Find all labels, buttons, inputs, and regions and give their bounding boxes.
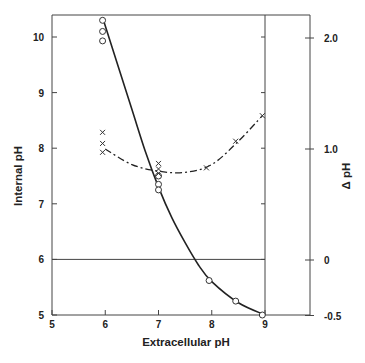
y-tick-label: 5 — [38, 310, 44, 321]
y-tick-label: 8 — [38, 143, 44, 154]
chart: 56789 5678910 -0.501.02.0 Extracellular … — [0, 0, 365, 363]
x-marker — [100, 150, 105, 155]
y-tick-label: 9 — [38, 88, 44, 99]
x-axis-title: Extracellular pH — [142, 336, 230, 348]
y-tick-label: 10 — [33, 32, 45, 43]
x-axis-ticks: 56789 — [49, 310, 268, 330]
delta-ph-curve — [105, 116, 262, 173]
y2-axis-title: Δ pH — [340, 163, 352, 190]
x-marker — [260, 113, 265, 118]
x-marker — [100, 141, 105, 146]
data-series — [100, 17, 266, 318]
circle-marker — [100, 28, 106, 34]
y-axis-title: Internal pH — [12, 146, 24, 206]
x-tick-label: 6 — [102, 319, 108, 330]
x-marker — [156, 166, 161, 171]
circle-marker — [233, 298, 239, 304]
y-tick-label: 6 — [38, 254, 44, 265]
circle-marker — [100, 17, 106, 23]
x-tick-label: 8 — [209, 319, 215, 330]
x-tick-label: 5 — [49, 319, 55, 330]
y2-tick-label: 2.0 — [324, 33, 338, 44]
y2-tick-label: -0.5 — [324, 311, 342, 322]
circle-marker — [259, 312, 265, 318]
circle-marker — [206, 278, 212, 284]
x-tick-label: 7 — [156, 319, 162, 330]
x-marker — [156, 161, 161, 166]
y2-tick-label: 0 — [324, 255, 330, 266]
y2-axis-ticks: -0.501.02.0 — [305, 33, 342, 322]
y2-tick-label: 1.0 — [324, 144, 338, 155]
internal-ph-curve — [103, 18, 265, 315]
y-tick-label: 7 — [38, 199, 44, 210]
plot-frame — [52, 15, 310, 315]
y-axis-ticks: 5678910 — [33, 32, 265, 321]
circle-marker — [100, 38, 106, 44]
x-marker — [100, 130, 105, 135]
x-tick-label: 9 — [262, 319, 268, 330]
circle-marker — [156, 187, 162, 193]
